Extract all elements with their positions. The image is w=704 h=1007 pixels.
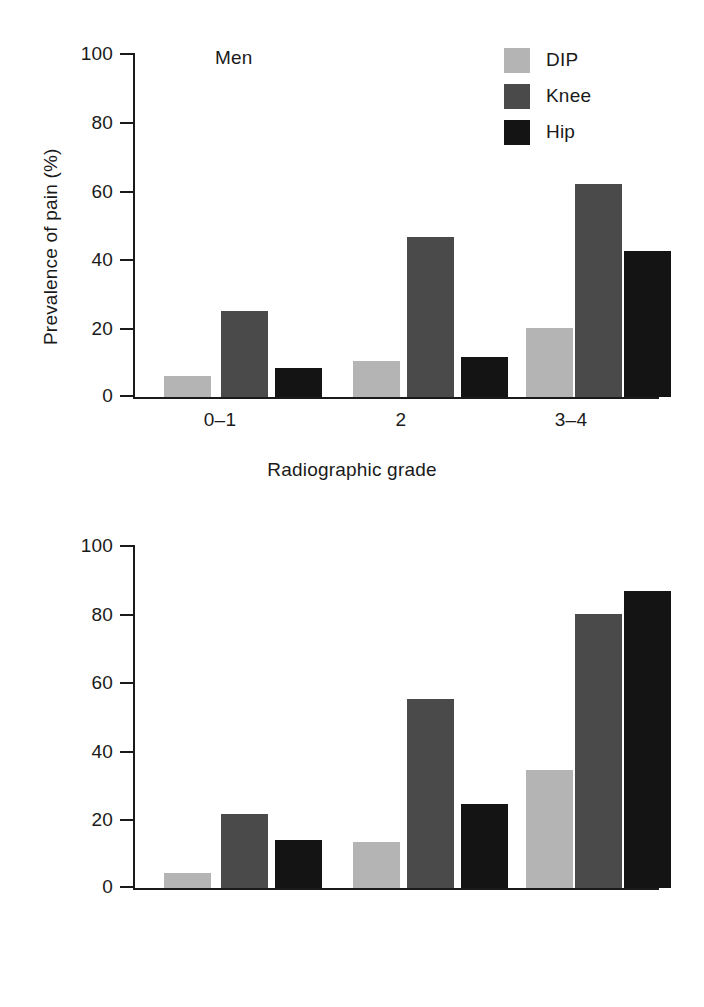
bar-women-grade-2-dip xyxy=(353,842,400,888)
x-axis-title-men: Radiographic grade xyxy=(0,459,704,481)
y-tick-20-men: 20 xyxy=(120,328,133,330)
plot-area-women: 100 80 60 40 20 0 xyxy=(133,545,663,888)
bar-women-grade-2-hip xyxy=(461,804,508,888)
y-tick-100-women: 100 xyxy=(120,545,133,547)
x-axis-line-men xyxy=(133,397,659,399)
y-tick-80-women: 80 xyxy=(120,614,133,616)
legend-label-knee: Knee xyxy=(546,85,591,107)
bar-women-grade-2-knee xyxy=(407,699,454,888)
y-tick-label-60-men: 60 xyxy=(91,181,113,203)
y-tick-label-20-women: 20 xyxy=(91,809,113,831)
y-tick-60-men: 60 xyxy=(120,191,133,193)
bar-men-grade-0-1-dip xyxy=(164,376,211,397)
bar-men-grade-2-dip xyxy=(353,361,400,397)
y-tick-40-men: 40 xyxy=(120,259,133,261)
chart-panel-women: Women Prevalence of pain (%) 100 80 60 4… xyxy=(0,492,704,1007)
legend-item-knee: Knee xyxy=(504,78,674,114)
x-tick-label-men-0: 0–1 xyxy=(204,409,236,431)
y-tick-label-40-women: 40 xyxy=(91,741,113,763)
x-tick-labels-men: 0–1 2 3–4 xyxy=(0,409,530,435)
legend-swatch-dip-icon xyxy=(504,48,530,73)
x-axis-line-women xyxy=(133,888,659,890)
y-tick-100-men: 100 xyxy=(120,53,133,55)
y-tick-20-women: 20 xyxy=(120,819,133,821)
bar-women-grade-3-4-knee xyxy=(575,614,622,888)
y-tick-label-60-women: 60 xyxy=(91,672,113,694)
legend-item-dip: DIP xyxy=(504,42,674,78)
legend-swatch-hip-icon xyxy=(504,120,530,145)
y-tick-label-100-men: 100 xyxy=(81,43,113,65)
y-tick-0-women: 0 xyxy=(120,886,133,888)
bar-men-grade-0-1-knee xyxy=(221,311,268,397)
y-tick-60-women: 60 xyxy=(120,682,133,684)
bar-men-grade-3-4-knee xyxy=(575,184,622,397)
y-tick-0-men: 0 xyxy=(120,395,133,397)
chart-panel-men: Men Prevalence of pain (%) 100 80 60 40 … xyxy=(0,0,704,500)
legend-swatch-knee-icon xyxy=(504,84,530,109)
y-tick-label-80-women: 80 xyxy=(91,604,113,626)
y-tick-80-men: 80 xyxy=(120,122,133,124)
y-tick-label-0-women: 0 xyxy=(102,876,113,898)
bar-women-grade-3-4-dip xyxy=(526,770,573,888)
bar-men-grade-2-knee xyxy=(407,237,454,397)
legend: DIP Knee Hip xyxy=(504,42,674,150)
legend-item-hip: Hip xyxy=(504,114,674,150)
bar-men-grade-2-hip xyxy=(461,357,508,397)
x-tick-label-men-2: 3–4 xyxy=(555,409,587,431)
bar-women-grade-0-1-knee xyxy=(221,814,268,888)
y-tick-40-women: 40 xyxy=(120,751,133,753)
x-tick-label-men-1: 2 xyxy=(396,409,407,431)
bar-men-grade-3-4-hip xyxy=(624,251,671,397)
legend-label-hip: Hip xyxy=(546,121,575,143)
bar-women-grade-0-1-dip xyxy=(164,873,211,888)
bar-women-grade-3-4-hip xyxy=(624,591,671,888)
y-tick-label-40-men: 40 xyxy=(91,249,113,271)
y-axis-title-men: Prevalence of pain (%) xyxy=(40,148,62,345)
y-tick-label-20-men: 20 xyxy=(91,318,113,340)
y-tick-label-0-men: 0 xyxy=(102,385,113,407)
y-tick-label-80-men: 80 xyxy=(91,112,113,134)
y-tick-label-100-women: 100 xyxy=(81,535,113,557)
figure-prevalence-of-pain-by-radiographic-grade: Men Prevalence of pain (%) 100 80 60 40 … xyxy=(0,0,704,1007)
bar-men-grade-0-1-hip xyxy=(275,368,322,397)
bar-men-grade-3-4-dip xyxy=(526,328,573,397)
bar-women-grade-0-1-hip xyxy=(275,840,322,888)
legend-label-dip: DIP xyxy=(546,49,578,71)
bar-group-container-women xyxy=(135,545,663,888)
